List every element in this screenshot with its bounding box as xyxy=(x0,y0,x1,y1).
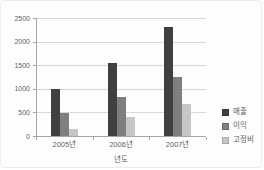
legend-label: 이익 xyxy=(233,122,247,130)
y-tick-label: 1000 xyxy=(4,85,30,92)
legend-item: 매출 xyxy=(222,108,254,116)
bar-이익-2005년 xyxy=(60,113,69,136)
y-tick-label: 2000 xyxy=(4,38,30,45)
legend-label: 매출 xyxy=(233,108,247,116)
gridline xyxy=(36,65,206,66)
bar-chart: 050010001500200025002005년2006년2007년 년도 매… xyxy=(0,0,262,168)
legend: 매출이익고정비 xyxy=(222,108,254,150)
gridline xyxy=(36,18,206,19)
x-axis-line xyxy=(36,136,206,137)
x-tick-label: 2006년 xyxy=(93,140,150,149)
bar-이익-2006년 xyxy=(117,97,126,136)
legend-swatch xyxy=(222,123,229,130)
x-tick-label: 2007년 xyxy=(149,140,206,149)
legend-swatch xyxy=(222,137,229,144)
y-tick-label: 2500 xyxy=(4,15,30,22)
legend-item: 이익 xyxy=(222,122,254,130)
y-axis-line xyxy=(36,18,37,136)
gridline xyxy=(36,42,206,43)
bar-이익-2007년 xyxy=(173,77,182,136)
legend-swatch xyxy=(222,109,229,116)
bar-매출-2006년 xyxy=(108,63,117,136)
y-tick-label: 0 xyxy=(4,133,30,140)
legend-item: 고정비 xyxy=(222,136,254,144)
bar-고정비-2005년 xyxy=(69,129,78,136)
x-tick-mark xyxy=(206,137,207,140)
y-tick-label: 500 xyxy=(4,109,30,116)
x-tick-label: 2005년 xyxy=(36,140,93,149)
y-tick-label: 1500 xyxy=(4,62,30,69)
bar-매출-2005년 xyxy=(51,89,60,136)
bar-매출-2007년 xyxy=(164,27,173,136)
x-axis-title: 년도 xyxy=(36,153,206,164)
bar-고정비-2006년 xyxy=(126,117,135,136)
bar-고정비-2007년 xyxy=(182,104,191,136)
legend-label: 고정비 xyxy=(233,136,254,144)
